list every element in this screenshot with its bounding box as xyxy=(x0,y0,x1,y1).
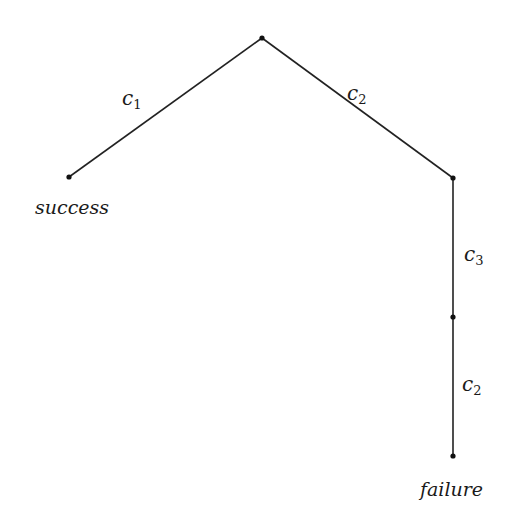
edge-label-c2-top: c2 xyxy=(347,81,366,107)
edge-root-success xyxy=(69,38,262,177)
node-label-failure: failure xyxy=(418,478,483,500)
tree-diagram: c1 c2 c3 c2 success failure xyxy=(0,0,530,524)
edge-label-c3: c3 xyxy=(464,242,483,268)
node-right xyxy=(450,175,455,180)
edge-label-c1: c1 xyxy=(122,86,141,112)
node-mid xyxy=(450,314,455,319)
node-success xyxy=(66,174,71,179)
edge-root-right xyxy=(262,38,453,178)
node-failure xyxy=(450,453,455,458)
edge-label-c2-bottom: c2 xyxy=(462,372,481,398)
node-label-success: success xyxy=(35,196,109,218)
node-root xyxy=(259,35,264,40)
